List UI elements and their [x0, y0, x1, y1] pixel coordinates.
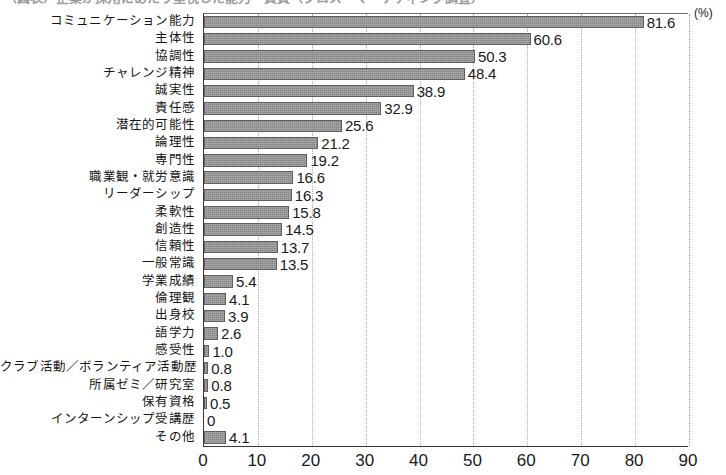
- bar-row[interactable]: 4.1: [204, 291, 688, 308]
- bar-value-label: 2.6: [221, 325, 241, 342]
- bar-row[interactable]: 0: [204, 412, 688, 429]
- x-tick-50: 50: [463, 450, 482, 472]
- category-label: チャレンジ精神: [0, 65, 199, 82]
- category-label: コミュニケーション能力: [0, 13, 199, 30]
- bar[interactable]: [204, 379, 208, 391]
- bar[interactable]: [204, 397, 207, 409]
- bar-row[interactable]: 13.7: [204, 239, 688, 256]
- bar-row[interactable]: 4.1: [204, 430, 688, 447]
- bar[interactable]: [204, 171, 293, 183]
- bar-value-label: 81.6: [647, 14, 675, 31]
- bar-value-label: 60.6: [534, 31, 562, 48]
- bar[interactable]: [204, 206, 289, 218]
- bar-value-label: 15.8: [292, 204, 320, 221]
- bar-row[interactable]: 5.4: [204, 274, 688, 291]
- bar-row[interactable]: 13.5: [204, 256, 688, 273]
- bar[interactable]: [204, 120, 342, 132]
- bar-row[interactable]: 0.8: [204, 360, 688, 377]
- category-label: 感受性: [0, 342, 199, 359]
- bar-value-label: 0.5: [210, 395, 230, 412]
- bar[interactable]: [204, 345, 209, 357]
- bar[interactable]: [204, 431, 226, 443]
- x-axis-unit-label: (%): [694, 4, 713, 22]
- category-label: 誠実性: [0, 82, 199, 99]
- bar-row[interactable]: 48.4: [204, 66, 688, 83]
- bar-value-label: 0.8: [211, 377, 231, 394]
- bar-value-label: 25.6: [345, 117, 373, 134]
- bar-value-label: 0.8: [211, 360, 231, 377]
- bar-value-label: 1.0: [212, 343, 232, 360]
- bar-series: 81.660.650.348.438.932.925.621.219.216.6…: [204, 14, 688, 446]
- plot-area: 81.660.650.348.438.932.925.621.219.216.6…: [203, 13, 688, 447]
- category-label: その他: [0, 429, 199, 446]
- bar-row[interactable]: 16.6: [204, 170, 688, 187]
- bar-value-label: 3.9: [228, 308, 248, 325]
- bar[interactable]: [204, 275, 233, 287]
- x-tick-30: 30: [355, 450, 374, 472]
- bar[interactable]: [204, 327, 218, 339]
- category-label: 一般常識: [0, 255, 199, 272]
- bar-row[interactable]: 0.5: [204, 395, 688, 412]
- bar[interactable]: [204, 223, 282, 235]
- category-label: 責任感: [0, 100, 199, 117]
- bar-row[interactable]: 2.6: [204, 326, 688, 343]
- category-label: インターンシップ受講歴: [0, 411, 199, 428]
- bar[interactable]: [204, 33, 531, 45]
- category-axis: コミュニケーション能力主体性協調性チャレンジ精神誠実性責任感潜在的可能性論理性専…: [0, 13, 199, 447]
- category-label: 出身校: [0, 307, 199, 324]
- bar-value-label: 13.7: [281, 239, 309, 256]
- category-label: 所属ゼミ／研究室: [0, 377, 199, 394]
- bar[interactable]: [204, 154, 307, 166]
- bar-row[interactable]: 50.3: [204, 49, 688, 66]
- bar[interactable]: [204, 293, 226, 305]
- bar[interactable]: [204, 50, 475, 62]
- bar-row[interactable]: 15.8: [204, 205, 688, 222]
- category-label: 保有資格: [0, 394, 199, 411]
- category-label: 専門性: [0, 152, 199, 169]
- bar[interactable]: [204, 137, 318, 149]
- x-tick-70: 70: [571, 450, 590, 472]
- x-axis-tick-labels: 0102030405060708090: [0, 450, 726, 475]
- bar-row[interactable]: 16.3: [204, 187, 688, 204]
- bar-chart: コミュニケーション能力主体性協調性チャレンジ精神誠実性責任感潜在的可能性論理性専…: [0, 0, 726, 475]
- bar[interactable]: [204, 189, 292, 201]
- bar-row[interactable]: 81.6: [204, 14, 688, 31]
- bar-row[interactable]: 38.9: [204, 83, 688, 100]
- bar[interactable]: [204, 310, 225, 322]
- bar-value-label: 5.4: [236, 273, 256, 290]
- category-label: 倫理観: [0, 290, 199, 307]
- bar-value-label: 13.5: [280, 256, 308, 273]
- x-tick-40: 40: [409, 450, 428, 472]
- category-label: 主体性: [0, 30, 199, 47]
- bar-row[interactable]: 1.0: [204, 343, 688, 360]
- bar[interactable]: [204, 85, 414, 97]
- bar-value-label: 4.1: [229, 429, 249, 446]
- bar-row[interactable]: 0.8: [204, 378, 688, 395]
- bar-row[interactable]: 32.9: [204, 101, 688, 118]
- bar-value-label: 14.5: [285, 221, 313, 238]
- bar[interactable]: [204, 258, 277, 270]
- category-label: クラブ活動／ボランティア活動歴: [0, 359, 199, 376]
- bar[interactable]: [204, 241, 278, 253]
- bar-value-label: 50.3: [478, 48, 506, 65]
- category-label: 創造性: [0, 221, 199, 238]
- bar-row[interactable]: 3.9: [204, 308, 688, 325]
- category-label: 協調性: [0, 48, 199, 65]
- bar-row[interactable]: 25.6: [204, 118, 688, 135]
- bar-row[interactable]: 60.6: [204, 31, 688, 48]
- bar-value-label: 4.1: [229, 291, 249, 308]
- bar-value-label: 0: [207, 412, 215, 429]
- bar-value-label: 19.2: [310, 152, 338, 169]
- x-tick-90: 90: [679, 450, 698, 472]
- bar-value-label: 38.9: [417, 83, 445, 100]
- bar-row[interactable]: 14.5: [204, 222, 688, 239]
- bar-row[interactable]: 19.2: [204, 153, 688, 170]
- x-tick-10: 10: [247, 450, 266, 472]
- bar-row[interactable]: 21.2: [204, 135, 688, 152]
- bar-value-label: 21.2: [321, 135, 349, 152]
- x-tick-0: 0: [198, 450, 207, 472]
- bar[interactable]: [204, 102, 381, 114]
- bar[interactable]: [204, 362, 208, 374]
- bar[interactable]: [204, 16, 644, 28]
- bar[interactable]: [204, 68, 465, 80]
